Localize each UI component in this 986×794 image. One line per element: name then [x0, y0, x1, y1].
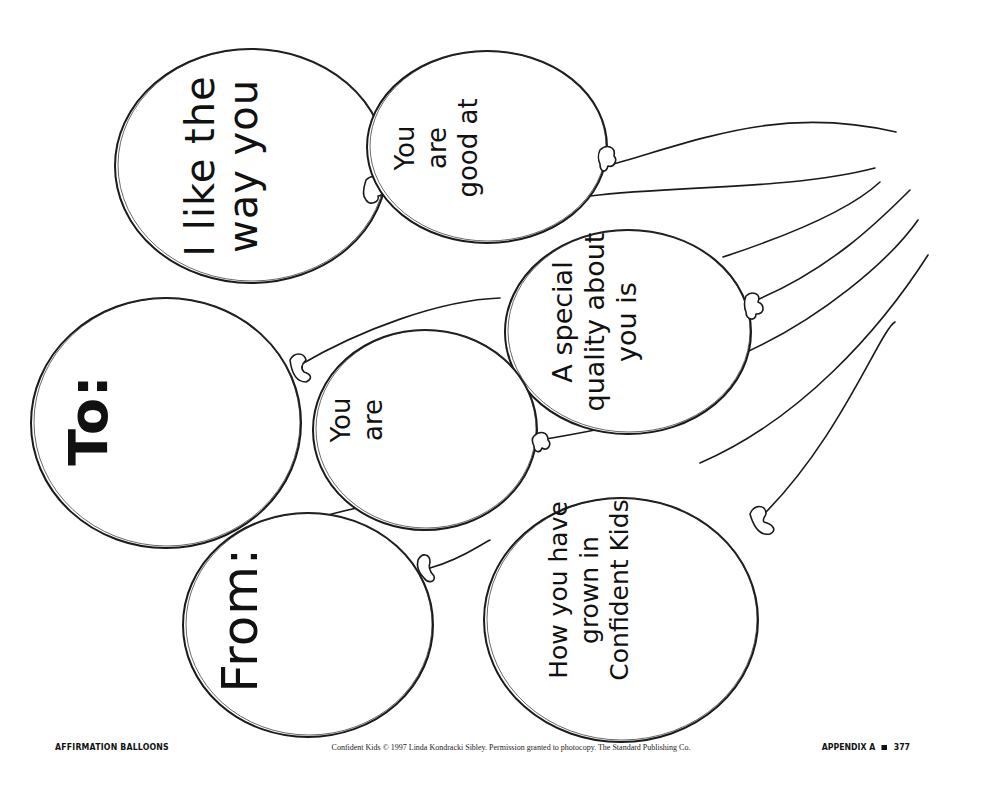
- balloon-illustration: [0, 0, 986, 794]
- balloon-text-line: are: [358, 398, 390, 443]
- balloon-label-from: From:: [214, 547, 267, 693]
- balloon-string: [752, 190, 910, 302]
- balloon-label-grown: How you have grown in Confident Kids: [544, 499, 636, 680]
- balloon-label-good-at: You are good at: [390, 98, 485, 197]
- balloon-string: [760, 322, 895, 518]
- balloon-label-to: To:: [61, 374, 118, 465]
- bullet-separator-icon: [882, 745, 888, 750]
- balloon-text-line: I like the: [179, 75, 222, 256]
- balloon-text-line: quality about: [579, 233, 611, 412]
- balloon-knot: [750, 507, 774, 535]
- balloon-text-line: way you: [222, 75, 265, 256]
- balloon-string: [740, 220, 918, 355]
- balloon-text-line: How you have: [544, 499, 575, 680]
- footer-page-ref: Appendix A377: [822, 742, 910, 752]
- balloon-text-line: you is: [611, 233, 643, 412]
- balloon-text-line: are: [422, 98, 454, 197]
- balloon-text-line: To:: [61, 374, 118, 465]
- balloon-knot: [290, 354, 310, 382]
- balloon-string: [723, 182, 880, 257]
- balloon-text-line: From:: [214, 547, 267, 693]
- balloon-string: [430, 540, 490, 568]
- balloon-text-line: A special: [547, 233, 579, 412]
- balloon-string: [606, 122, 896, 166]
- balloon-text-line: You: [390, 98, 422, 197]
- footer-page-number: 377: [894, 742, 910, 752]
- balloon-label-like-the-way: I like the way you: [179, 75, 265, 256]
- balloon-text-line: grown in: [575, 499, 606, 680]
- balloon-knot: [533, 433, 550, 452]
- balloon-label-you-are: You are: [326, 398, 389, 443]
- footer-appendix-label: Appendix A: [822, 742, 876, 752]
- balloon-knot: [745, 293, 764, 319]
- balloon-knot: [599, 147, 616, 171]
- balloon-text-line: Confident Kids: [605, 499, 636, 680]
- balloon-text-line: good at: [454, 98, 486, 197]
- balloon-label-special-quality: A special quality about you is: [547, 233, 643, 412]
- balloon-text-line: You: [326, 398, 358, 443]
- balloon-string: [590, 168, 875, 196]
